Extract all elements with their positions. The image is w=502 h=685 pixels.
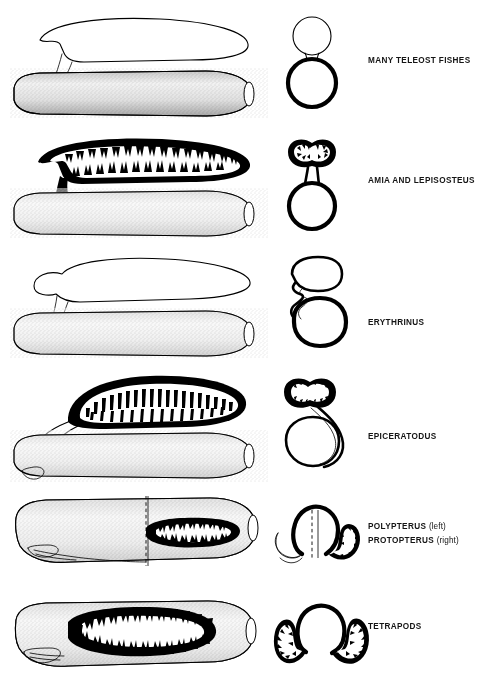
- gut-section: [293, 507, 338, 554]
- row-label-epiceratodus: EPICERATODUS: [368, 430, 502, 444]
- lateral-view-teleosts: [10, 8, 268, 120]
- label-line: ERYTHRINUS: [368, 316, 502, 330]
- gas-bladder-outline: [34, 258, 250, 302]
- anatomy-figure: MANY TELEOST FISHES: [0, 0, 502, 685]
- cross-section-teleosts: [272, 8, 364, 120]
- gut-section: [286, 417, 339, 466]
- taxon-name: TETRAPODS: [368, 622, 422, 631]
- gut-cut-end: [244, 444, 254, 468]
- gut-cut-end: [246, 618, 256, 644]
- bladder-section: [292, 257, 342, 291]
- lateral-view-erythrinus: [10, 248, 268, 360]
- taxon-side-polypterus: (left): [429, 522, 446, 531]
- cross-section-erythrinus: [272, 248, 364, 360]
- gut-section: [288, 59, 336, 107]
- lung-lumen: [291, 384, 329, 402]
- gut-cut-end: [248, 515, 258, 541]
- cross-section-tetrapods: [272, 596, 372, 682]
- lateral-view-epiceratodus: [10, 368, 268, 486]
- cross-section-amia: [272, 128, 364, 240]
- figure-row: AMIA AND LEPISOSTEUS: [0, 128, 502, 240]
- gut-stipple: [10, 188, 268, 238]
- row-label-erythrinus: ERYTHRINUS: [368, 316, 502, 330]
- gut-section: [294, 298, 346, 346]
- gas-bladder-outline: [40, 18, 248, 62]
- row-label-teleosts: MANY TELEOST FISHES: [368, 54, 502, 68]
- figure-row: TETRAPODS: [0, 596, 502, 682]
- gut-section: [289, 183, 335, 229]
- label-line: MANY TELEOST FISHES: [368, 54, 502, 68]
- label-line: PROTOPTERUS (right): [368, 534, 502, 548]
- bladder-section: [293, 17, 331, 55]
- gut-stipple: [10, 68, 268, 118]
- gut-cut-end: [244, 322, 254, 346]
- lateral-view-amia: [10, 128, 268, 240]
- gut-cut-end: [244, 82, 254, 106]
- lateral-view-polypterus-protopterus: [10, 492, 268, 592]
- row-label-amia: AMIA AND LEPISOSTEUS: [368, 174, 502, 188]
- label-line: POLYPTERUS (left): [368, 520, 502, 534]
- label-line: AMIA AND LEPISOSTEUS: [368, 174, 502, 188]
- taxon-name-polypterus: POLYPTERUS: [368, 522, 426, 531]
- figure-row: ERYTHRINUS: [0, 248, 502, 360]
- cross-section-polypterus-protopterus: [272, 492, 364, 592]
- label-line: EPICERATODUS: [368, 430, 502, 444]
- taxon-side-protopterus: (right): [437, 536, 459, 545]
- taxon-name: ERYTHRINUS: [368, 318, 424, 327]
- figure-row: POLYPTERUS (left) PROTOPTERUS (right): [0, 492, 502, 592]
- gut-stipple: [10, 308, 268, 358]
- taxon-name: MANY TELEOST FISHES: [368, 56, 471, 65]
- row-label-tetrapods: TETRAPODS: [368, 620, 502, 634]
- gut-stipple: [10, 430, 268, 482]
- taxon-name: AMIA AND LEPISOSTEUS: [368, 176, 475, 185]
- taxon-name: EPICERATODUS: [368, 432, 437, 441]
- figure-row: MANY TELEOST FISHES: [0, 8, 502, 120]
- gut-section: [298, 606, 345, 653]
- gut-cut-end: [244, 202, 254, 226]
- figure-row: EPICERATODUS: [0, 368, 502, 486]
- cross-section-epiceratodus: [272, 368, 364, 486]
- row-label-polypterus-protopterus: POLYPTERUS (left) PROTOPTERUS (right): [368, 520, 502, 547]
- label-line: TETRAPODS: [368, 620, 502, 634]
- lateral-view-tetrapods: [10, 596, 268, 682]
- taxon-name-protopterus: PROTOPTERUS: [368, 536, 434, 545]
